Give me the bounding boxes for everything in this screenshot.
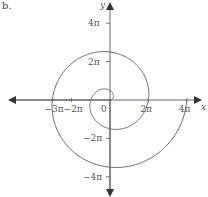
y-tick-label: −4π bbox=[83, 172, 102, 182]
polar-spiral-chart: −3π−2π02π4π4π2π−2π−4π x y bbox=[0, 0, 208, 197]
y-axis-label: y bbox=[99, 0, 106, 10]
x-axis-label: x bbox=[201, 102, 206, 112]
x-tick-label: 0 bbox=[101, 104, 107, 114]
x-tick-label: −3π bbox=[44, 104, 63, 114]
y-tick-label: 4π bbox=[88, 18, 100, 28]
x-tick-label: −2π bbox=[64, 104, 83, 114]
y-tick-label: 2π bbox=[88, 57, 100, 67]
y-tick-label: −2π bbox=[83, 133, 102, 143]
